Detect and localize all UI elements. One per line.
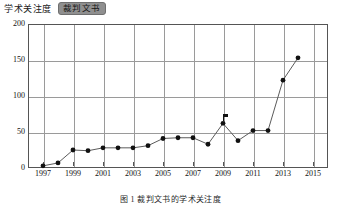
datapoint-2010 bbox=[236, 138, 241, 143]
x-tick-label-2011: 2011 bbox=[236, 170, 270, 178]
x-tick-label-2007: 2007 bbox=[176, 170, 210, 178]
academic-attention-label: 学术关注度 bbox=[4, 2, 52, 15]
datapoint-1999 bbox=[71, 148, 76, 153]
series-plot bbox=[28, 24, 328, 168]
datapoint-2005 bbox=[161, 136, 166, 141]
datapoint-1998 bbox=[56, 161, 61, 166]
x-tick-label-1997: 1997 bbox=[26, 170, 60, 178]
chart-container: 050100150200 199719992001200320052007200… bbox=[0, 18, 341, 188]
peak-flag-marker-icon bbox=[223, 114, 228, 121]
y-tick-label-150: 150 bbox=[1, 56, 25, 64]
datapoint-2004 bbox=[146, 143, 151, 148]
x-tick-label-1999: 1999 bbox=[56, 170, 90, 178]
figure-caption: 图 1 裁判文书的学术关注度 bbox=[0, 193, 341, 204]
x-tick-label-2013: 2013 bbox=[266, 170, 300, 178]
x-tick-label-2005: 2005 bbox=[146, 170, 180, 178]
datapoint-2013 bbox=[281, 78, 286, 83]
chart-legend-header: 学术关注度 裁判文书 bbox=[4, 1, 106, 16]
x-tick-label-2003: 2003 bbox=[116, 170, 150, 178]
series-line-judgment-documents bbox=[43, 58, 298, 166]
datapoint-2000 bbox=[86, 148, 91, 153]
x-tick-label-2009: 2009 bbox=[206, 170, 240, 178]
y-tick-label-100: 100 bbox=[1, 92, 25, 100]
x-tick-label-2001: 2001 bbox=[86, 170, 120, 178]
series-datapoints bbox=[41, 55, 301, 168]
y-tick-label-200: 200 bbox=[1, 20, 25, 28]
datapoint-2006 bbox=[176, 135, 181, 140]
datapoint-2007 bbox=[191, 135, 196, 140]
datapoint-2011 bbox=[251, 128, 256, 133]
y-tick-label-0: 0 bbox=[1, 164, 25, 172]
datapoint-2012 bbox=[266, 128, 271, 133]
x-tick-label-2015: 2015 bbox=[296, 170, 330, 178]
datapoint-2014 bbox=[296, 55, 301, 60]
datapoint-2009 bbox=[221, 121, 226, 126]
datapoint-2002 bbox=[116, 145, 121, 150]
datapoint-1997 bbox=[41, 163, 46, 168]
datapoint-2003 bbox=[131, 145, 136, 150]
datapoint-2001 bbox=[101, 145, 106, 150]
series-chip-judgment-documents[interactable]: 裁判文书 bbox=[58, 2, 106, 15]
y-tick-label-50: 50 bbox=[1, 128, 25, 136]
datapoint-2008 bbox=[206, 142, 211, 147]
